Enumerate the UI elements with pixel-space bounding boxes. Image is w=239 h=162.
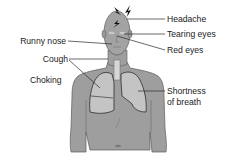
label-red-eyes: Red eyes	[167, 45, 203, 55]
lightning-bolt-icon	[125, 5, 131, 17]
body-figure	[70, 11, 166, 152]
label-runny-nose: Runny nose	[20, 36, 66, 46]
label-tearing-eyes: Tearing eyes	[167, 29, 216, 39]
label-choking: Choking	[30, 75, 62, 85]
label-headache: Headache	[167, 14, 206, 24]
head	[104, 11, 130, 55]
left-eye	[109, 32, 115, 34]
label-shortness-of-breath-line1: Shortness	[167, 86, 206, 96]
trachea	[114, 60, 120, 80]
label-shortness-of-breath-line2: of breath	[167, 97, 201, 107]
label-cough: Cough	[43, 54, 68, 64]
